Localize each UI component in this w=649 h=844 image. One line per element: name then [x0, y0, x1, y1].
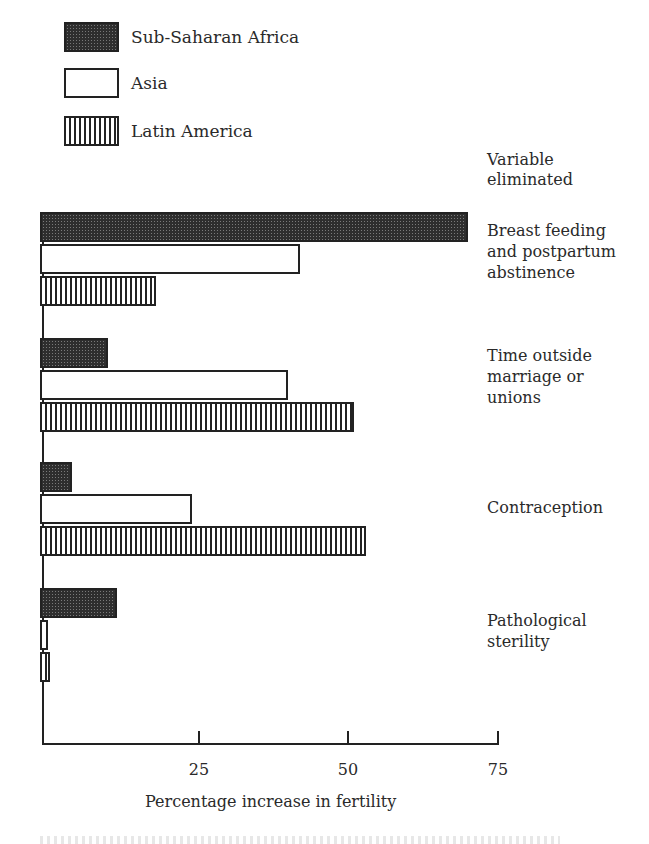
- label-line: marriage or: [487, 366, 592, 387]
- label-line: Time outside: [487, 345, 592, 366]
- header-line: Variable: [487, 150, 573, 170]
- bar-la-3: [40, 652, 50, 682]
- x-tick-label-25: 25: [189, 760, 209, 779]
- bar-la-2: [40, 526, 366, 556]
- bar-ssa-3: [40, 588, 117, 618]
- bar-asia-1: [40, 370, 288, 400]
- bar-ssa-0: [40, 212, 468, 242]
- bar-ssa-1: [40, 338, 108, 368]
- label-line: unions: [487, 387, 592, 408]
- bar-asia-2: [40, 494, 192, 524]
- bar-asia-0: [40, 244, 300, 274]
- cut-off-caption: [40, 836, 560, 844]
- variable-eliminated-header: Variable eliminated: [487, 150, 573, 190]
- bar-la-1: [40, 402, 354, 432]
- x-axis-title: Percentage increase in fertility: [145, 792, 396, 811]
- legend-swatch-asia: [64, 68, 119, 98]
- x-tick-25: [198, 731, 200, 743]
- category-label-breastfeeding: Breast feeding and postpartum abstinence: [487, 220, 616, 283]
- bar-asia-3: [40, 620, 48, 650]
- label-line: and postpartum: [487, 241, 616, 262]
- legend-swatch-ssa: [64, 22, 119, 52]
- legend-item-ssa: Sub-Saharan Africa: [64, 22, 299, 52]
- label-line: sterility: [487, 631, 587, 652]
- label-line: abstinence: [487, 262, 616, 283]
- legend-label-ssa: Sub-Saharan Africa: [131, 27, 299, 47]
- header-line: eliminated: [487, 170, 573, 190]
- x-tick-label-50: 50: [338, 760, 358, 779]
- label-line: Contraception: [487, 497, 603, 518]
- legend-item-asia: Asia: [64, 68, 168, 98]
- legend-item-la: Latin America: [64, 116, 253, 146]
- x-tick-label-75: 75: [488, 760, 508, 779]
- label-line: Pathological: [487, 610, 587, 631]
- x-tick-50: [347, 731, 349, 743]
- x-axis-line: [42, 743, 499, 745]
- category-label-contraception: Contraception: [487, 497, 603, 518]
- legend-label-la: Latin America: [131, 121, 253, 141]
- x-tick-75: [497, 731, 499, 743]
- bar-ssa-2: [40, 462, 72, 492]
- category-label-pathological: Pathological sterility: [487, 610, 587, 652]
- bar-la-0: [40, 276, 156, 306]
- category-label-time-outside: Time outside marriage or unions: [487, 345, 592, 408]
- legend-swatch-la: [64, 116, 119, 146]
- legend-label-asia: Asia: [131, 73, 168, 93]
- label-line: Breast feeding: [487, 220, 616, 241]
